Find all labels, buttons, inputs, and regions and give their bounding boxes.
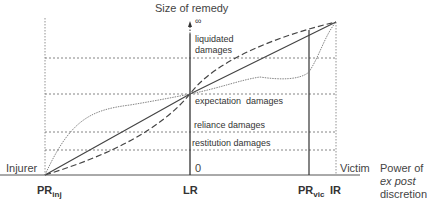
liquidated-label-1: liquidated bbox=[195, 34, 234, 44]
x-axis-title-2: ex post bbox=[380, 175, 416, 187]
injurer-label: Injurer bbox=[6, 162, 38, 174]
remedy-diagram: Size of remedy ∞ liquidated damages expe… bbox=[0, 0, 427, 206]
arrow-up-icon bbox=[188, 21, 192, 27]
infinity-symbol: ∞ bbox=[195, 16, 201, 26]
victim-label: Victim bbox=[340, 162, 370, 174]
liquidated-label-2: damages bbox=[195, 45, 233, 55]
x-axis-title-1: Power of bbox=[380, 162, 424, 174]
restitution-label: restitution damages bbox=[192, 138, 271, 148]
expectation-label: expectation damages bbox=[195, 96, 284, 106]
y-axis-title: Size of remedy bbox=[155, 2, 229, 14]
reliance-label: reliance damages bbox=[194, 120, 266, 130]
pr-vic-label: PRvic bbox=[298, 184, 325, 199]
pr-inj-label: PRinj bbox=[37, 184, 62, 199]
origin-label: 0 bbox=[195, 162, 201, 174]
lr-label: LR bbox=[183, 184, 198, 196]
ir-label: IR bbox=[330, 184, 341, 196]
x-axis-title-3: discretion bbox=[380, 188, 427, 200]
